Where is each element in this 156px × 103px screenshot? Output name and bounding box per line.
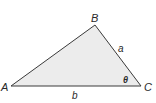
vertex-label-a: A — [0, 81, 8, 93]
side-label-b: b — [72, 90, 78, 101]
vertex-label-c: C — [144, 81, 152, 93]
triangle-diagram: A B C a b θ — [0, 0, 156, 103]
vertex-label-b: B — [91, 12, 98, 24]
triangle-abc — [11, 25, 141, 86]
angle-label-theta: θ — [123, 75, 128, 85]
side-label-a: a — [118, 43, 124, 54]
